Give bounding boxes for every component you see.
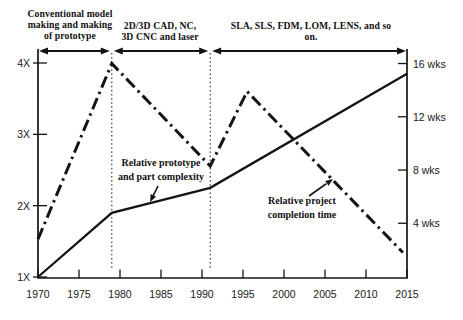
x-tick-label: 1970	[22, 288, 54, 300]
era-label-line: of prototype	[25, 30, 115, 41]
completion-label-arrow-head	[325, 179, 333, 186]
x-tick-label: 1985	[145, 288, 177, 300]
era-label-line: 3D CNC and laser	[113, 31, 207, 42]
era-arrowhead-left	[114, 47, 123, 54]
x-tick-label: 2015	[391, 288, 423, 300]
series-line-completion-time	[38, 64, 403, 253]
era-label-rapid-prototyping: SLA, SLS, FDM, LOM, LENS, and so on.	[222, 20, 400, 42]
x-tick-label: 1980	[104, 288, 136, 300]
era-label-line: on.	[222, 31, 400, 42]
y-left-tick-label: 1X	[2, 271, 30, 283]
era-label-conventional: Conventional model making and making of …	[25, 8, 115, 41]
series-label-line: Relative project	[262, 194, 342, 208]
era-arrowhead-left	[212, 47, 221, 54]
axes-frame	[38, 49, 407, 278]
y-left-tick-label: 3X	[2, 128, 30, 140]
era-label-cad-cnc: 2D/3D CAD, NC, 3D CNC and laser	[113, 20, 207, 42]
x-tick-label: 1995	[227, 288, 259, 300]
y-right-tick-label: 4 wks	[413, 217, 440, 229]
x-tick-label: 1975	[63, 288, 95, 300]
y-right-tick-label: 12 wks	[413, 111, 446, 123]
era-label-line: Conventional model	[25, 8, 115, 19]
y-left-tick-label: 4X	[2, 57, 30, 69]
era-label-line: 2D/3D CAD, NC,	[113, 20, 207, 31]
y-left-tick-label: 2X	[2, 200, 30, 212]
x-tick-label: 2005	[309, 288, 341, 300]
era-arrowhead-right	[397, 47, 406, 54]
series-label-complexity: Relative prototype and part complexity	[111, 156, 211, 184]
series-label-line: and part complexity	[111, 170, 211, 184]
figure: Conventional model making and making of …	[0, 0, 463, 320]
x-tick-label: 1990	[186, 288, 218, 300]
era-label-line: making and making	[25, 19, 115, 30]
chart-canvas	[0, 0, 463, 320]
era-label-line: SLA, SLS, FDM, LOM, LENS, and so	[222, 20, 400, 31]
era-arrowhead-right	[101, 47, 110, 54]
era-arrowhead-right	[199, 47, 208, 54]
x-tick-label: 2000	[268, 288, 300, 300]
series-label-line: Relative prototype	[111, 156, 211, 170]
x-tick-label: 2010	[350, 288, 382, 300]
era-arrowhead-left	[39, 47, 48, 54]
y-right-tick-label: 16 wks	[413, 58, 446, 70]
series-label-line: completion time	[262, 208, 342, 222]
y-right-tick-label: 8 wks	[413, 164, 440, 176]
series-label-completion-time: Relative project completion time	[262, 194, 342, 222]
